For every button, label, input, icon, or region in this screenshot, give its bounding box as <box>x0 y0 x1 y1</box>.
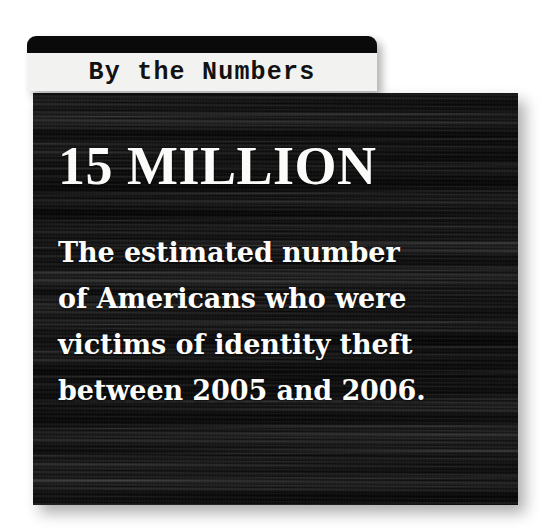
statistic-headline: 15 MILLION <box>58 93 506 192</box>
header-label: By the Numbers <box>27 36 377 91</box>
statistic-body-line: of Americans who were <box>58 276 506 322</box>
panel-content: 15 MILLION The estimated number of Ameri… <box>58 93 506 414</box>
statistic-body: The estimated number of Americans who we… <box>58 192 506 414</box>
header-title: By the Numbers <box>27 53 377 91</box>
statistic-body-line: The estimated number <box>58 230 506 276</box>
statistic-body-line: victims of identity theft <box>58 322 506 368</box>
header-top-bar <box>27 36 377 53</box>
statistic-body-line: between 2005 and 2006. <box>58 368 506 414</box>
by-the-numbers-infographic: By the Numbers 15 MILLION The estimated … <box>0 0 540 532</box>
statistic-panel: 15 MILLION The estimated number of Ameri… <box>33 93 518 505</box>
